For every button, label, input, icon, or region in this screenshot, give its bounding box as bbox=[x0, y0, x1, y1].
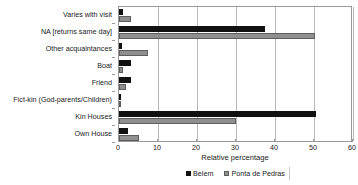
x-tick-label: 10 bbox=[153, 143, 161, 152]
bar-group bbox=[119, 58, 351, 75]
category-label: Kin Houses bbox=[75, 113, 112, 121]
bar-ponta-de-pedras bbox=[119, 101, 121, 107]
bar-group bbox=[119, 109, 351, 126]
bar-belem bbox=[119, 128, 128, 134]
x-tickmark bbox=[352, 139, 353, 142]
bar-ponta-de-pedras bbox=[119, 50, 148, 56]
category-tickmark bbox=[112, 108, 115, 109]
x-tick-label: 50 bbox=[309, 143, 317, 152]
bar-belem bbox=[119, 26, 265, 32]
bar-belem bbox=[119, 111, 316, 117]
category-label: NA [returns same day] bbox=[41, 28, 112, 36]
category-tickmark bbox=[112, 40, 115, 41]
category-label: Varies with visit bbox=[63, 11, 112, 19]
x-tick-label: 0 bbox=[116, 143, 120, 152]
category-tickmark bbox=[112, 142, 115, 143]
plot-area bbox=[118, 6, 352, 142]
bar-belem bbox=[119, 43, 122, 49]
x-tickmark bbox=[313, 139, 314, 142]
legend-item-ponta-de-pedras[interactable]: Ponta de Pedras bbox=[224, 170, 285, 178]
category-label: Own House bbox=[74, 130, 112, 138]
legend-label: Belem bbox=[193, 170, 213, 178]
category-tickmark bbox=[112, 74, 115, 75]
bar-group bbox=[119, 92, 351, 109]
chart-legend: BelemPonta de Pedras bbox=[184, 167, 290, 180]
x-tick-label: 40 bbox=[270, 143, 278, 152]
category-label: Friend bbox=[92, 79, 112, 87]
legend-label: Ponta de Pedras bbox=[231, 170, 285, 178]
x-tickmark bbox=[235, 139, 236, 142]
bar-group bbox=[119, 75, 351, 92]
bar-group bbox=[119, 24, 351, 41]
gridline bbox=[353, 7, 354, 141]
bar-belem bbox=[119, 9, 123, 15]
bar-belem bbox=[119, 60, 131, 66]
category-label: Boat bbox=[97, 62, 112, 70]
category-label: Fict-kin (God-parents/Children) bbox=[13, 96, 112, 104]
x-axis-title: Relative percentage bbox=[118, 153, 352, 162]
legend-swatch-icon bbox=[186, 171, 191, 176]
bar-group bbox=[119, 7, 351, 24]
bar-rows bbox=[119, 7, 351, 141]
bar-ponta-de-pedras bbox=[119, 84, 126, 90]
x-tick-label: 20 bbox=[192, 143, 200, 152]
category-label: Other acquaintances bbox=[46, 45, 112, 53]
bar-group bbox=[119, 41, 351, 58]
legend-swatch-icon bbox=[224, 171, 229, 176]
category-tickmark bbox=[112, 91, 115, 92]
x-tick-label: 60 bbox=[348, 143, 356, 152]
bar-ponta-de-pedras bbox=[119, 118, 236, 124]
legend-item-belem[interactable]: Belem bbox=[186, 170, 213, 178]
bar-ponta-de-pedras bbox=[119, 16, 131, 22]
x-tickmark bbox=[196, 139, 197, 142]
bar-belem bbox=[119, 94, 121, 100]
x-tickmark bbox=[274, 139, 275, 142]
category-tickmark bbox=[112, 57, 115, 58]
x-tickmark bbox=[157, 139, 158, 142]
bar-ponta-de-pedras bbox=[119, 67, 123, 73]
category-tickmark bbox=[112, 125, 115, 126]
category-tickmark bbox=[112, 23, 115, 24]
bar-belem bbox=[119, 77, 131, 83]
category-axis-labels: Varies with visitNA [returns same day]Ot… bbox=[0, 6, 115, 142]
x-tickmark bbox=[118, 139, 119, 142]
x-tick-label: 30 bbox=[231, 143, 239, 152]
bar-ponta-de-pedras bbox=[119, 135, 139, 141]
bar-chart: Varies with visitNA [returns same day]Ot… bbox=[0, 0, 358, 185]
bar-ponta-de-pedras bbox=[119, 33, 315, 39]
